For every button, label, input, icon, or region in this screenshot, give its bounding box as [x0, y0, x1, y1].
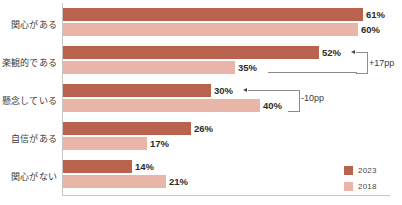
chart-row: 自信がある 26% 17%: [0, 120, 402, 158]
bar-2023[interactable]: [63, 122, 191, 135]
delta-arrow-icon: [243, 88, 247, 92]
bar-value-2023: 26%: [194, 122, 213, 135]
bar-value-2018: 21%: [169, 175, 188, 188]
legend-label: 2018: [358, 182, 377, 191]
bar-2023[interactable]: [63, 84, 211, 97]
bar-2018[interactable]: [63, 137, 147, 150]
category-label: 自信がある: [0, 120, 57, 158]
delta-arrow-icon: [351, 50, 355, 54]
bar-value-2023: 52%: [322, 46, 341, 59]
legend-swatch-icon: [344, 166, 353, 175]
bar-value-2018: 35%: [238, 61, 257, 74]
delta-label-optimistic: +17pp: [369, 58, 394, 68]
bar-2018[interactable]: [63, 23, 358, 36]
delta-bracket: [288, 90, 300, 112]
bar-value-2023: 61%: [366, 8, 385, 21]
legend-swatch-icon: [344, 182, 353, 191]
delta-bracket: [356, 52, 368, 74]
bar-2023[interactable]: [63, 46, 319, 59]
chart-row: 関心がない 14% 21%: [0, 158, 402, 196]
bar-value-2018: 40%: [263, 99, 282, 112]
bar-value-2018: 17%: [150, 137, 169, 150]
legend-item-2018[interactable]: 2018: [344, 179, 396, 193]
category-label: 関心がある: [0, 6, 57, 44]
bar-2023[interactable]: [63, 160, 132, 173]
chart-legend: 2023 2018: [344, 163, 396, 195]
bar-2018[interactable]: [63, 61, 235, 74]
category-label: 懸念している: [0, 82, 57, 120]
delta-leader-line: [268, 72, 357, 73]
bar-chart: 関心がある 61% 60% 楽観的である 52% 35% +17pp 懸念してい…: [0, 0, 402, 205]
bar-value-2023: 14%: [135, 160, 154, 173]
bar-value-2023: 30%: [214, 84, 233, 97]
bar-value-2018: 60%: [361, 23, 380, 36]
legend-label: 2023: [358, 166, 377, 175]
plot-area: 関心がある 61% 60% 楽観的である 52% 35% +17pp 懸念してい…: [0, 0, 402, 195]
category-label: 楽観的である: [0, 44, 57, 82]
legend-item-2023[interactable]: 2023: [344, 163, 396, 177]
bar-2018[interactable]: [63, 175, 166, 188]
bar-2018[interactable]: [63, 99, 260, 112]
delta-label-concerned: -10pp: [301, 93, 324, 103]
chart-row: 関心がある 61% 60%: [0, 6, 402, 44]
bar-2023[interactable]: [63, 8, 363, 21]
category-label: 関心がない: [0, 158, 57, 196]
chart-row: 懸念している 30% 40% -10pp: [0, 82, 402, 120]
chart-row: 楽観的である 52% 35% +17pp: [0, 44, 402, 82]
